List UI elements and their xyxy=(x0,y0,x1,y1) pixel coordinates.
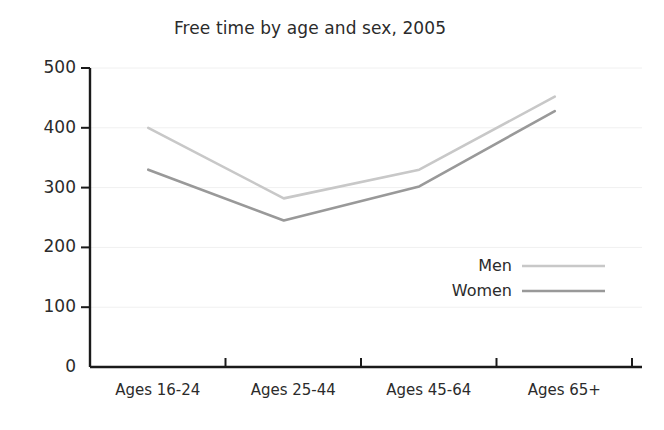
gridlines xyxy=(90,68,642,307)
legend-swatches xyxy=(522,266,605,291)
y-tick-label: 0 xyxy=(24,356,76,376)
x-tick-label-3: Ages 45-64 xyxy=(359,381,499,399)
series-line-men xyxy=(148,97,555,199)
legend-label-women: Women xyxy=(392,281,512,300)
chart-container: Free time by age and sex, 2005 010020030… xyxy=(0,0,664,430)
line-chart-plot xyxy=(0,0,664,430)
y-tick-label: 400 xyxy=(24,117,76,137)
y-tick-label: 500 xyxy=(24,57,76,77)
y-tick-label: 200 xyxy=(24,236,76,256)
x-tick-label-1: Ages 16-24 xyxy=(88,381,228,399)
legend-label-men: Men xyxy=(392,256,512,275)
y-tick-label: 300 xyxy=(24,177,76,197)
chart-axes xyxy=(81,68,642,367)
x-tick-label-4: Ages 65+ xyxy=(494,381,634,399)
data-series-lines xyxy=(148,97,555,221)
y-tick-label: 100 xyxy=(24,296,76,316)
x-tick-label-2: Ages 25-44 xyxy=(223,381,363,399)
